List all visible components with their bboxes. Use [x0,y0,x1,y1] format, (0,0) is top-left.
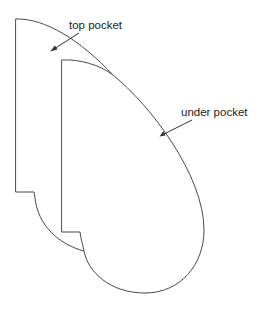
top-pocket-label: top pocket [69,19,123,31]
under-pocket-label: under pocket [181,106,248,118]
pocket-diagram: top pocket under pocket [0,0,260,314]
under-pocket-arrow-line [163,120,192,135]
under-pocket-shape [62,60,204,293]
under-pocket-annotation: under pocket [160,106,249,137]
